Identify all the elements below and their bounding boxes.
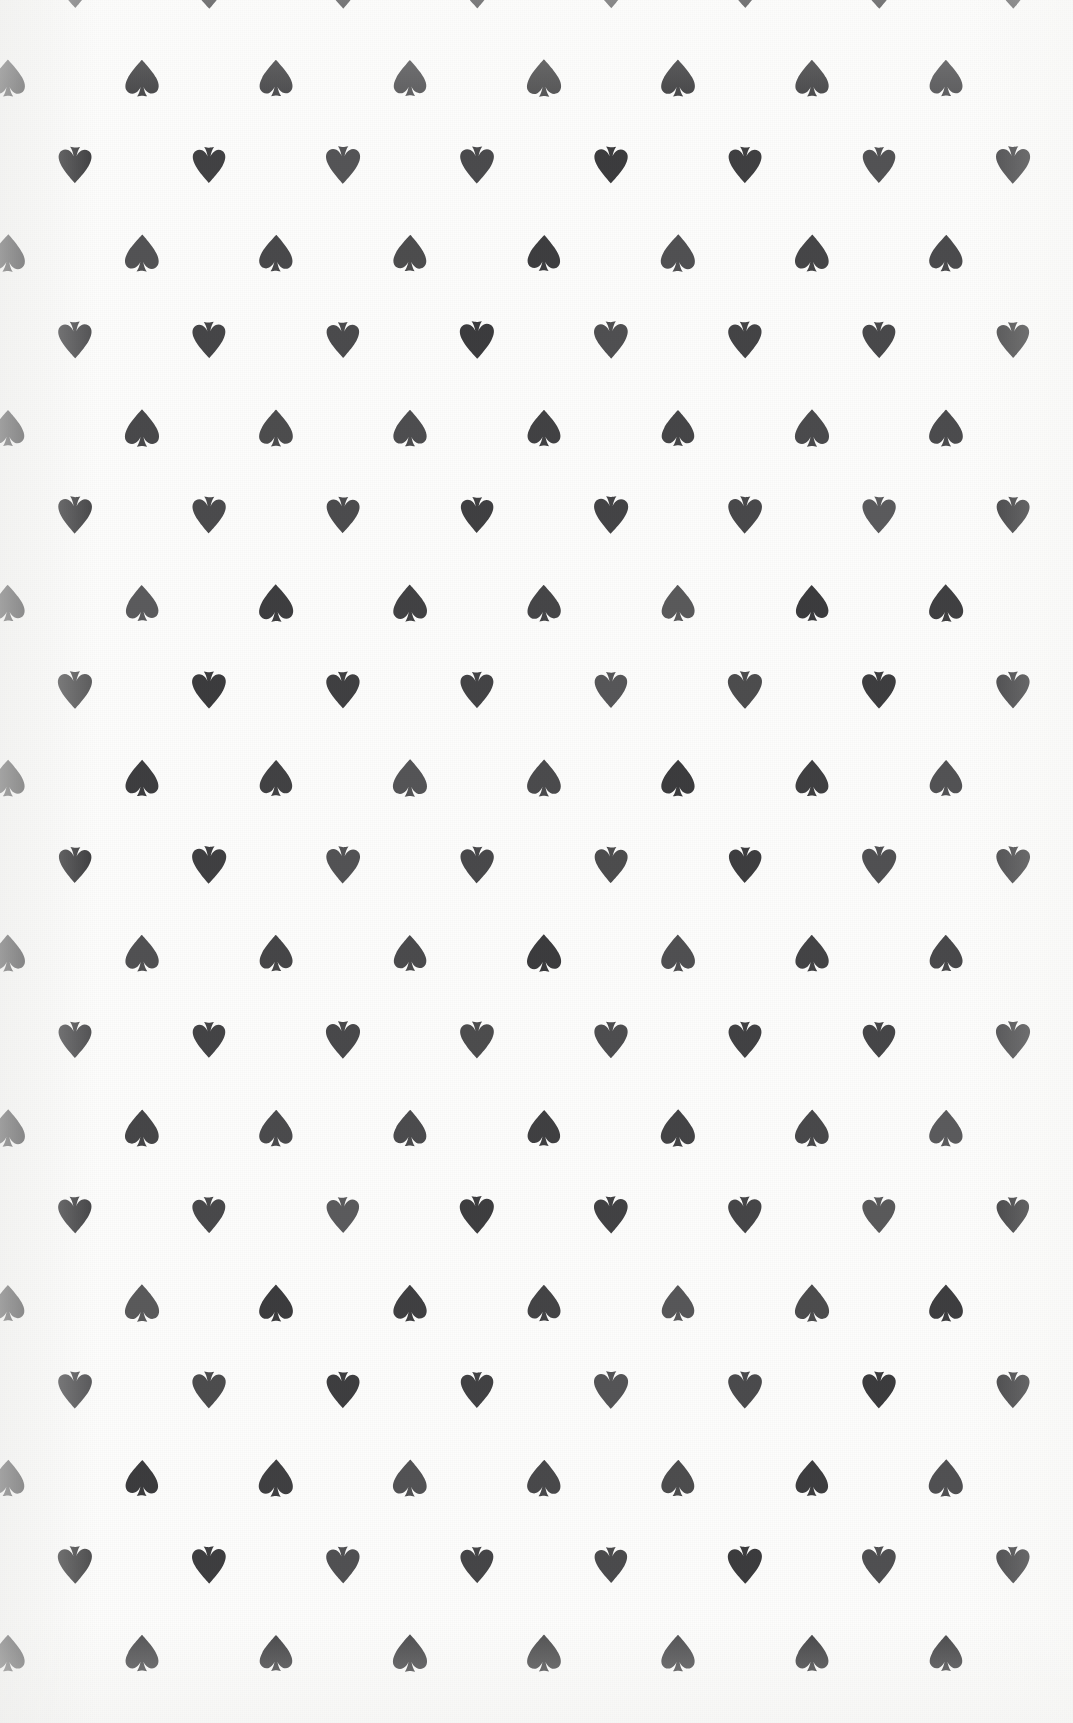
spade-icon	[727, 319, 764, 361]
spade-icon	[660, 1632, 696, 1674]
spade-icon	[0, 1632, 26, 1674]
spade-icon	[258, 406, 294, 449]
spade-icon	[391, 581, 428, 624]
spade-icon	[124, 1632, 160, 1673]
spade-icon	[191, 319, 227, 361]
spade-icon	[928, 406, 964, 449]
spade-icon	[928, 231, 965, 274]
spade-icon	[191, 144, 226, 185]
spade-icon	[660, 756, 696, 798]
spade-icon	[392, 1281, 428, 1323]
spade-icon	[258, 1281, 295, 1324]
spade-icon	[258, 1106, 295, 1148]
spade-icon	[57, 1369, 94, 1412]
spade-icon	[0, 407, 26, 448]
spade-icon	[325, 1369, 361, 1411]
spade-icon	[593, 1019, 629, 1061]
spade-icon	[726, 493, 763, 536]
spade-icon	[459, 144, 496, 187]
spade-icon	[592, 318, 629, 361]
spade-icon	[526, 1631, 562, 1674]
spade-icon	[927, 1456, 965, 1500]
spade-icon	[124, 406, 161, 449]
spade-icon	[592, 493, 629, 537]
spade-icon	[794, 406, 831, 449]
spade-icon	[928, 1632, 963, 1673]
spade-icon	[325, 1544, 362, 1586]
spade-icon	[124, 757, 160, 799]
spade-icon	[526, 1456, 563, 1499]
spade-icon	[726, 668, 763, 711]
spade-icon	[459, 1019, 495, 1062]
spade-icon	[124, 931, 161, 973]
spade-icon	[392, 932, 428, 973]
spade-icon	[726, 1543, 763, 1587]
spade-icon	[793, 231, 830, 274]
spade-icon	[191, 1194, 227, 1236]
spade-icon	[861, 319, 897, 361]
spade-icon	[995, 1544, 1032, 1586]
spade-icon	[727, 844, 763, 886]
spade-icon	[458, 1193, 496, 1237]
spade-icon	[526, 756, 563, 799]
spade-icon	[994, 143, 1031, 186]
spade-icon	[57, 1194, 94, 1237]
spade-icon	[57, 319, 94, 361]
pip-grid	[0, 0, 1073, 1723]
spade-icon	[257, 581, 295, 625]
spade-icon	[727, 1019, 763, 1060]
spade-icon	[258, 757, 293, 798]
spade-icon	[0, 1106, 27, 1150]
spade-icon	[593, 844, 629, 886]
spade-icon	[861, 1020, 896, 1061]
spade-icon	[995, 669, 1031, 711]
spade-icon	[727, 1194, 764, 1237]
spade-icon	[995, 319, 1031, 360]
spade-icon	[794, 1457, 830, 1499]
spade-icon	[392, 407, 428, 449]
spade-icon	[324, 0, 361, 12]
spade-icon	[995, 1369, 1031, 1411]
spade-icon	[660, 1282, 695, 1323]
spade-icon	[526, 581, 563, 624]
spade-icon	[793, 1281, 830, 1324]
spade-icon	[794, 56, 830, 98]
spade-icon	[124, 582, 160, 624]
spade-icon	[123, 231, 160, 274]
spade-icon	[659, 231, 697, 275]
spade-icon	[124, 56, 160, 98]
spade-icon	[57, 144, 93, 186]
spade-icon	[325, 1194, 361, 1236]
spade-icon	[324, 843, 361, 886]
spade-icon	[458, 318, 495, 362]
spade-icon	[794, 1632, 830, 1673]
spade-icon	[593, 1544, 629, 1585]
spade-icon	[190, 843, 228, 887]
spade-icon	[994, 0, 1031, 12]
spade-icon	[325, 1018, 362, 1061]
spade-icon	[794, 931, 831, 973]
spade-icon	[0, 581, 26, 623]
spade-icon	[526, 1282, 562, 1324]
spade-icon	[861, 669, 898, 712]
spade-icon	[659, 1106, 696, 1150]
spade-icon	[994, 843, 1031, 886]
spade-icon	[995, 1194, 1031, 1236]
spade-icon	[191, 494, 228, 536]
spade-icon	[57, 0, 93, 11]
spade-icon	[325, 669, 361, 711]
spade-icon	[258, 57, 294, 99]
spade-icon	[928, 1281, 965, 1324]
spade-icon	[191, 669, 228, 712]
spade-icon	[459, 494, 495, 535]
spade-icon	[861, 1194, 897, 1236]
spade-icon	[459, 0, 496, 11]
spade-icon	[57, 1019, 93, 1060]
spade-icon	[592, 1193, 629, 1236]
spade-icon	[861, 144, 896, 185]
spade-icon	[0, 1456, 26, 1498]
spade-icon	[0, 756, 26, 798]
spade-icon	[325, 319, 361, 360]
spade-icon	[0, 231, 27, 275]
spade-icon	[860, 1543, 897, 1586]
